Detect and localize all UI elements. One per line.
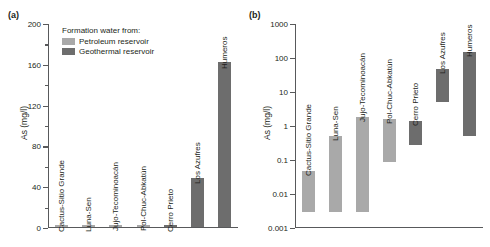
y-tick-label: 80 — [32, 142, 41, 151]
panel-b-tag: (b) — [249, 10, 261, 20]
panel-b: (b) 0.0010.010.11101001000 Cactus-Sitio … — [245, 0, 490, 247]
legend-label-petroleum: Petroleum reservoir — [79, 37, 149, 46]
y-tick-label: 1 — [284, 122, 288, 131]
legend-title: Formation water from: — [62, 26, 154, 35]
y-axis-line-a — [48, 24, 49, 228]
y-tick-major — [43, 187, 48, 188]
y-tick-label: 160 — [28, 60, 41, 69]
bar-cactus-sitio-grande[interactable] — [302, 171, 315, 212]
y-tick-label: 0 — [37, 224, 41, 233]
y-tick-minor — [45, 167, 48, 168]
bar-label: Los Azufres — [193, 142, 202, 184]
y-tick-major — [290, 58, 295, 59]
bar-label: Humeros — [220, 36, 229, 68]
y-tick-label: 1000 — [270, 20, 288, 29]
bar-los-azufres[interactable] — [436, 69, 449, 102]
bar-label: Jujo-Tecominoacán — [111, 162, 120, 231]
bar-label: Pol-Chuc-Abkatún — [385, 59, 394, 124]
y-tick-label: 40 — [32, 183, 41, 192]
bar-jujo-tecominoac-n[interactable] — [356, 117, 369, 211]
bar-label: Cactus-Sitio Grande — [304, 104, 313, 176]
y-axis-line-b — [295, 24, 296, 228]
y-tick-major — [290, 194, 295, 195]
bar-los-azufres[interactable] — [191, 178, 204, 227]
y-tick-major — [290, 126, 295, 127]
bar-label: Cerro Prieto — [411, 83, 420, 126]
bar-label: Humeros — [465, 24, 474, 56]
y-axis-title-a: As (mg/l) — [19, 93, 29, 153]
y-tick-minor — [45, 85, 48, 86]
y-tick-major — [43, 24, 48, 25]
y-tick-major — [290, 92, 295, 93]
bar-humeros[interactable] — [463, 52, 476, 137]
y-axis-title-b: As (mg/l) — [262, 93, 272, 153]
y-tick-minor — [45, 44, 48, 45]
bar-luna-sen[interactable] — [329, 136, 342, 212]
legend-a: Formation water from: Petroleum reservoi… — [62, 26, 154, 57]
y-tick-major — [43, 228, 48, 229]
y-tick-major — [290, 160, 295, 161]
y-tick-label: 100 — [275, 54, 288, 63]
bar-label: Cerro Prieto — [166, 188, 175, 231]
bar-label: Jujo-Tecominoacán — [358, 53, 367, 122]
bar-label: Pol-Chuc-Abkatún — [139, 167, 148, 232]
bar-humeros[interactable] — [218, 62, 231, 226]
y-tick-minor — [45, 208, 48, 209]
y-tick-major — [290, 24, 295, 25]
bar-label: Cactus-Sitio Grande — [57, 160, 66, 232]
y-tick-major — [43, 65, 48, 66]
y-tick-major — [290, 228, 295, 229]
y-tick-label: 0.1 — [277, 156, 288, 165]
figure-container: (a) 04080120160200 Cactus-Sitio GrandeLu… — [0, 0, 490, 247]
legend-item-geothermal: Geothermal reservoir — [62, 47, 154, 56]
legend-swatch-geothermal — [62, 48, 75, 55]
bar-pol-chuc-abkat-n[interactable] — [383, 119, 396, 161]
bar-label: Luna-Sen — [84, 197, 93, 232]
y-tick-label: 0.001 — [268, 224, 288, 233]
bar-label: Los Azufres — [438, 32, 447, 74]
plot-area-b: 0.0010.010.11101001000 Cactus-Sitio Gran… — [295, 24, 483, 228]
y-tick-label: 200 — [28, 20, 41, 29]
panel-a-tag: (a) — [8, 10, 19, 20]
bar-label: Luna-Sen — [331, 106, 340, 141]
y-tick-major — [43, 106, 48, 107]
y-tick-major — [43, 146, 48, 147]
legend-label-geothermal: Geothermal reservoir — [79, 47, 154, 56]
y-tick-minor — [45, 126, 48, 127]
y-tick-label: 0.01 — [272, 190, 288, 199]
legend-item-petroleum: Petroleum reservoir — [62, 37, 154, 46]
y-tick-label: 10 — [279, 88, 288, 97]
x-axis-line-b — [295, 227, 483, 228]
legend-swatch-petroleum — [62, 38, 75, 45]
panel-a: (a) 04080120160200 Cactus-Sitio GrandeLu… — [0, 0, 245, 247]
y-tick-label: 120 — [28, 101, 41, 110]
